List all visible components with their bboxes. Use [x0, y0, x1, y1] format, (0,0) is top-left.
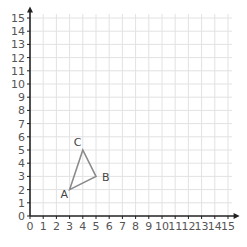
- vertex-label-b: B: [102, 171, 110, 184]
- x-axis-arrow-icon: [234, 213, 240, 219]
- x-tick-label: 11: [168, 220, 182, 233]
- x-tick-label: 7: [119, 220, 126, 233]
- y-tick-label: 11: [11, 65, 25, 78]
- y-tick-label: 9: [18, 91, 25, 104]
- x-tick-label: 3: [66, 220, 73, 233]
- x-tick-label: 5: [93, 220, 100, 233]
- x-tick-label: 4: [79, 220, 86, 233]
- x-tick-label: 12: [181, 220, 195, 233]
- triangle-abc: ABC: [61, 136, 110, 201]
- x-tick-label: 6: [106, 220, 113, 233]
- y-tick-label: 8: [18, 104, 25, 117]
- grid-lines: [30, 14, 232, 216]
- vertex-label-a: A: [61, 188, 69, 201]
- vertex-label-c: C: [74, 136, 82, 149]
- x-tick-label: 8: [132, 220, 139, 233]
- y-tick-label: 5: [18, 144, 25, 157]
- y-tick-label: 14: [11, 25, 25, 38]
- x-tick-label: 0: [27, 220, 34, 233]
- axes: [27, 6, 240, 219]
- x-tick-label: 13: [195, 220, 209, 233]
- y-tick-label: 1: [18, 197, 25, 210]
- x-tick-label: 9: [145, 220, 152, 233]
- x-tick-label: 2: [53, 220, 60, 233]
- y-axis-arrow-icon: [27, 6, 33, 12]
- x-tick-label: 1: [40, 220, 47, 233]
- x-tick-label: 10: [155, 220, 169, 233]
- x-tick-label: 15: [221, 220, 235, 233]
- y-tick-label: 4: [18, 157, 25, 170]
- y-tick-label: 7: [18, 118, 25, 131]
- x-tick-label: 14: [208, 220, 222, 233]
- y-tick-label: 0: [18, 210, 25, 223]
- coordinate-grid-chart: 0123456789101112131415012345678910111213…: [0, 0, 247, 247]
- y-tick-label: 2: [18, 184, 25, 197]
- y-tick-label: 15: [11, 12, 25, 25]
- y-tick-label: 13: [11, 38, 25, 51]
- y-tick-label: 3: [18, 170, 25, 183]
- y-tick-label: 6: [18, 131, 25, 144]
- y-tick-label: 10: [11, 78, 25, 91]
- y-tick-label: 12: [11, 52, 25, 65]
